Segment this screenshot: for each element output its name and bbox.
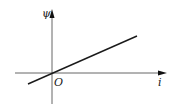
x-axis-arrow-icon xyxy=(158,71,167,76)
origin-label: O xyxy=(54,77,63,88)
psi-line xyxy=(28,36,137,84)
psi-i-graph xyxy=(0,0,179,111)
y-axis-label: ψ xyxy=(42,8,51,19)
x-axis-label: i xyxy=(158,77,162,88)
